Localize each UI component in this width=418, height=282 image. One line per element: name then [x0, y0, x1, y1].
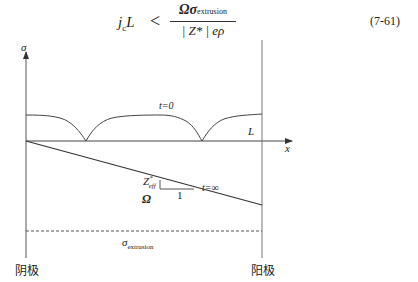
- stress-diagram: [0, 0, 418, 282]
- x-axis-label: x: [285, 142, 290, 154]
- omega-label: Ω: [142, 192, 151, 207]
- z-sup: *: [149, 174, 153, 182]
- cathode-label: 阴极: [15, 261, 39, 278]
- slope-triangle: [160, 180, 194, 189]
- t0-label: t=0: [159, 100, 174, 111]
- extrusion-label: σextrusion: [122, 236, 154, 251]
- slope-run-label: 1: [177, 189, 183, 201]
- t-infinity-label: t=∞: [202, 182, 219, 193]
- z-eff-label: Z*eff: [143, 174, 156, 190]
- z-sub: eff: [149, 182, 156, 190]
- length-label: L: [248, 125, 254, 137]
- extrusion-subscript: extrusion: [127, 243, 153, 251]
- anode-label: 阳极: [251, 261, 275, 278]
- sigma-axis-label: σ: [21, 41, 26, 53]
- curve-t0: [26, 114, 262, 141]
